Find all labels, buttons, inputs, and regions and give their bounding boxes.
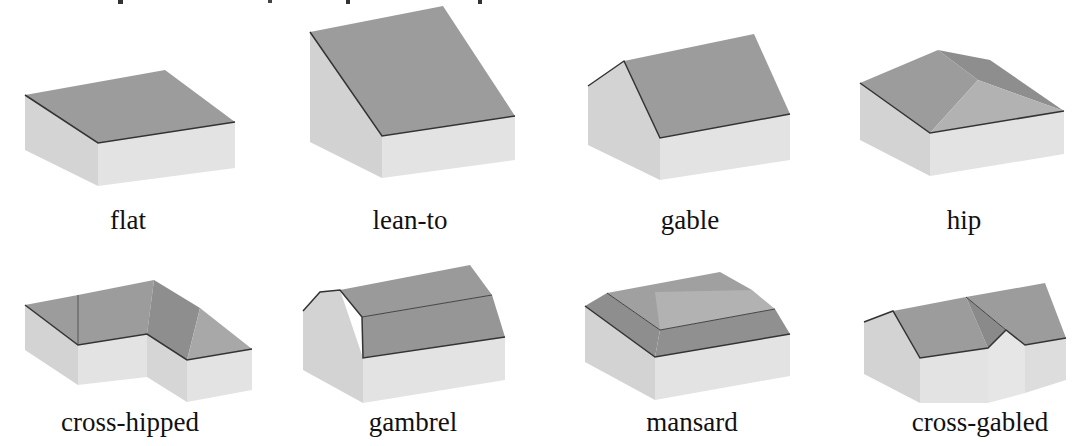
lean-to-roof-house-icon — [310, 6, 515, 178]
cross-gabled-roof-house-icon — [864, 283, 1066, 403]
label-lean-to: lean-to — [373, 205, 448, 236]
label-gable: gable — [661, 205, 719, 236]
gable-roof-house-icon — [588, 34, 790, 180]
label-cross-hipped: cross-hipped — [61, 407, 199, 438]
gambrel-roof-house-icon — [303, 265, 505, 403]
label-gambrel: gambrel — [369, 407, 457, 438]
label-flat: flat — [110, 205, 146, 236]
label-cross-gabled: cross-gabled — [912, 407, 1048, 438]
cross-hipped-roof-house-icon — [25, 280, 252, 402]
flat-roof-house-icon — [25, 70, 235, 186]
label-hip: hip — [947, 205, 982, 236]
label-mansard: mansard — [646, 407, 737, 438]
mansard-roof-house-icon — [585, 272, 790, 400]
hip-roof-house-icon — [860, 50, 1064, 176]
roof-diagram — [0, 0, 1080, 446]
